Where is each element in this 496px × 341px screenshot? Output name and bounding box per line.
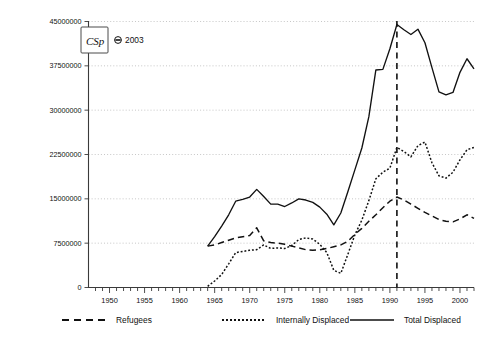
x-tick-label: 1960 xyxy=(171,296,187,305)
copyright-notice: 2003 xyxy=(115,35,144,45)
copyright-year-label: 2003 xyxy=(125,35,144,45)
x-tick-label: 2000 xyxy=(452,296,468,305)
logo-text: CSp xyxy=(86,35,105,47)
legend-label-internally_displaced: Internally Displaced xyxy=(276,315,349,325)
legend-label-refugees: Refugees xyxy=(116,315,152,325)
y-tick-label: 0 xyxy=(78,283,82,292)
y-tick-label: 15000000 xyxy=(50,194,82,203)
chart-background xyxy=(0,0,496,341)
y-tick-label: 22500000 xyxy=(50,150,82,159)
x-tick-label: 1955 xyxy=(136,296,152,305)
x-tick-label: 1965 xyxy=(206,296,222,305)
displacement-line-chart: 0750000015000000225000003000000037500000… xyxy=(0,0,496,341)
y-tick-label: 45000000 xyxy=(50,17,82,26)
x-tick-label: 1985 xyxy=(347,296,363,305)
x-tick-label: 1950 xyxy=(101,296,117,305)
y-tick-label: 37500000 xyxy=(50,61,82,70)
y-tick-label: 7500000 xyxy=(54,239,82,248)
x-tick-label: 1990 xyxy=(382,296,398,305)
logo-badge: CSp xyxy=(81,27,108,53)
legend-label-total_displaced: Total Displaced xyxy=(404,315,461,325)
y-tick-label: 30000000 xyxy=(50,106,82,115)
x-tick-label: 1975 xyxy=(277,296,293,305)
x-tick-label: 1970 xyxy=(241,296,257,305)
x-tick-label: 1980 xyxy=(312,296,328,305)
x-tick-label: 1995 xyxy=(417,296,433,305)
chart-container: 0750000015000000225000003000000037500000… xyxy=(0,0,496,341)
